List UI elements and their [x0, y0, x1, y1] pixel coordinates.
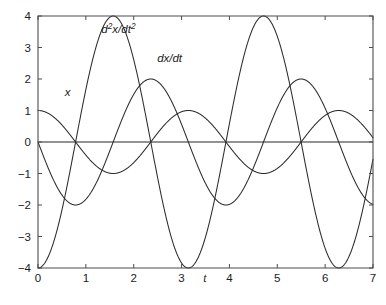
y-tick-label: −1 — [18, 168, 31, 180]
y-tick-label: −4 — [18, 262, 32, 274]
x-tick-label: 4 — [226, 272, 233, 284]
x-tick-label: 0 — [35, 272, 41, 284]
y-tick-label: 2 — [25, 73, 31, 85]
figure-canvas: 01234567 43210−1−2−3−4 t xdx/dtd2x/dt2 — [0, 0, 386, 305]
curve-label-d2x-dt2: d2x/dt2 — [101, 21, 136, 35]
chart-plot: 01234567 43210−1−2−3−4 t xdx/dtd2x/dt2 — [0, 0, 386, 305]
y-tick-label: 0 — [25, 136, 31, 148]
x-tick-label: 1 — [83, 272, 89, 284]
x-tick-label: 3 — [178, 272, 184, 284]
x-tick-label: 7 — [370, 272, 376, 284]
y-tick-label: −3 — [18, 231, 31, 243]
x-tick-label: 2 — [131, 272, 137, 284]
y-tick-label: 3 — [25, 42, 31, 54]
chart-background — [0, 0, 386, 305]
x-tick-label: 6 — [322, 272, 328, 284]
y-tick-label: 1 — [25, 105, 31, 117]
y-tick-label: 4 — [25, 10, 32, 22]
y-tick-label: −2 — [18, 199, 31, 211]
curve-label-dx-dt: dx/dt — [157, 52, 183, 64]
x-tick-label: 5 — [274, 272, 280, 284]
